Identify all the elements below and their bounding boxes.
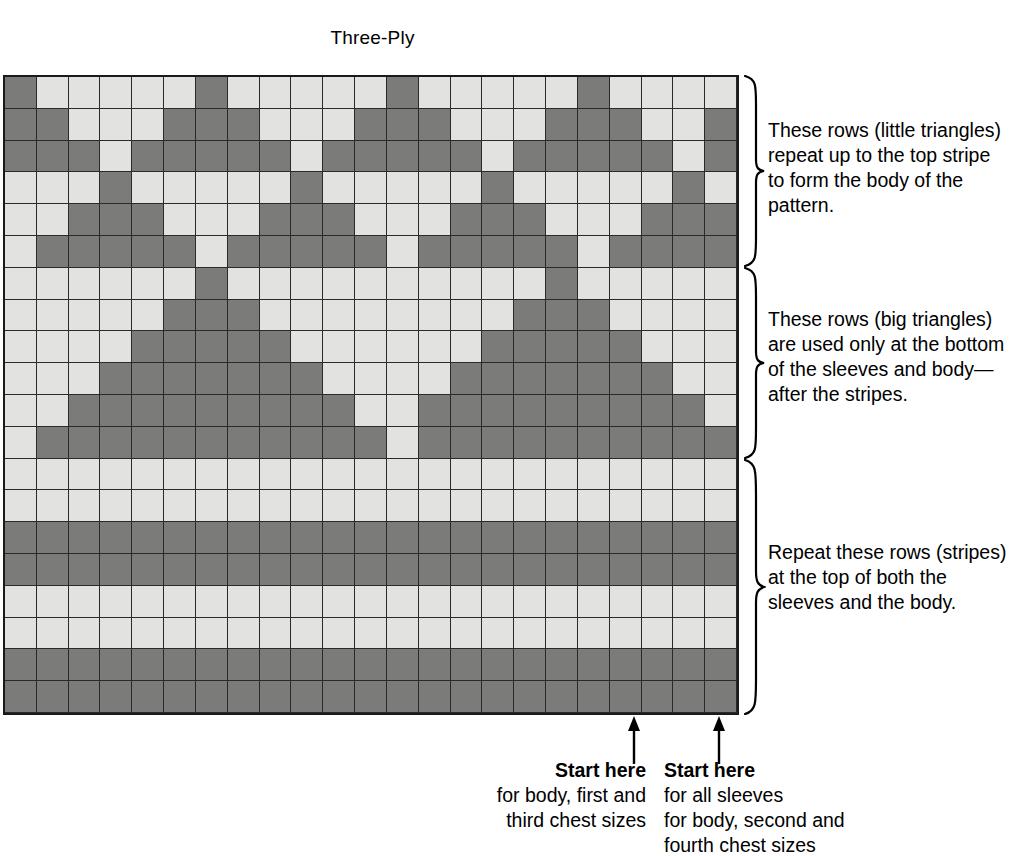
chart-cell[interactable] bbox=[291, 141, 323, 173]
chart-cell[interactable] bbox=[100, 300, 132, 332]
chart-cell[interactable] bbox=[164, 268, 196, 300]
chart-cell[interactable] bbox=[5, 586, 37, 618]
chart-cell[interactable] bbox=[37, 172, 69, 204]
chart-cell[interactable] bbox=[355, 427, 387, 459]
chart-cell[interactable] bbox=[37, 77, 69, 109]
chart-cell[interactable] bbox=[578, 427, 610, 459]
chart-cell[interactable] bbox=[673, 586, 705, 618]
chart-cell[interactable] bbox=[196, 109, 228, 141]
chart-cell[interactable] bbox=[69, 554, 101, 586]
chart-cell[interactable] bbox=[260, 554, 292, 586]
chart-cell[interactable] bbox=[5, 490, 37, 522]
chart-cell[interactable] bbox=[578, 363, 610, 395]
chart-cell[interactable] bbox=[69, 236, 101, 268]
chart-cell[interactable] bbox=[705, 268, 737, 300]
chart-cell[interactable] bbox=[482, 236, 514, 268]
chart-cell[interactable] bbox=[323, 427, 355, 459]
chart-cell[interactable] bbox=[291, 681, 323, 713]
chart-cell[interactable] bbox=[5, 236, 37, 268]
chart-cell[interactable] bbox=[132, 236, 164, 268]
chart-cell[interactable] bbox=[419, 554, 451, 586]
chart-cell[interactable] bbox=[5, 681, 37, 713]
chart-cell[interactable] bbox=[323, 77, 355, 109]
chart-cell[interactable] bbox=[37, 109, 69, 141]
chart-cell[interactable] bbox=[705, 236, 737, 268]
chart-cell[interactable] bbox=[260, 395, 292, 427]
chart-cell[interactable] bbox=[196, 459, 228, 491]
chart-cell[interactable] bbox=[260, 649, 292, 681]
chart-cell[interactable] bbox=[578, 395, 610, 427]
chart-cell[interactable] bbox=[673, 681, 705, 713]
chart-cell[interactable] bbox=[419, 331, 451, 363]
chart-cell[interactable] bbox=[482, 172, 514, 204]
chart-cell[interactable] bbox=[451, 300, 483, 332]
chart-cell[interactable] bbox=[291, 490, 323, 522]
chart-cell[interactable] bbox=[705, 427, 737, 459]
chart-cell[interactable] bbox=[419, 618, 451, 650]
chart-cell[interactable] bbox=[196, 618, 228, 650]
chart-cell[interactable] bbox=[323, 618, 355, 650]
chart-cell[interactable] bbox=[705, 586, 737, 618]
chart-cell[interactable] bbox=[37, 618, 69, 650]
chart-cell[interactable] bbox=[546, 681, 578, 713]
chart-cell[interactable] bbox=[228, 268, 260, 300]
chart-cell[interactable] bbox=[100, 204, 132, 236]
chart-cell[interactable] bbox=[37, 459, 69, 491]
chart-cell[interactable] bbox=[69, 109, 101, 141]
chart-cell[interactable] bbox=[132, 490, 164, 522]
chart-cell[interactable] bbox=[546, 141, 578, 173]
chart-cell[interactable] bbox=[164, 554, 196, 586]
chart-cell[interactable] bbox=[291, 618, 323, 650]
chart-cell[interactable] bbox=[642, 331, 674, 363]
chart-cell[interactable] bbox=[451, 141, 483, 173]
chart-cell[interactable] bbox=[578, 649, 610, 681]
chart-cell[interactable] bbox=[546, 300, 578, 332]
chart-cell[interactable] bbox=[132, 109, 164, 141]
chart-cell[interactable] bbox=[546, 331, 578, 363]
chart-cell[interactable] bbox=[196, 236, 228, 268]
chart-cell[interactable] bbox=[37, 649, 69, 681]
chart-cell[interactable] bbox=[610, 77, 642, 109]
chart-cell[interactable] bbox=[260, 77, 292, 109]
chart-cell[interactable] bbox=[673, 236, 705, 268]
chart-cell[interactable] bbox=[546, 268, 578, 300]
chart-cell[interactable] bbox=[578, 586, 610, 618]
chart-cell[interactable] bbox=[164, 300, 196, 332]
chart-cell[interactable] bbox=[419, 77, 451, 109]
chart-cell[interactable] bbox=[355, 204, 387, 236]
chart-cell[interactable] bbox=[228, 109, 260, 141]
chart-cell[interactable] bbox=[228, 681, 260, 713]
chart-cell[interactable] bbox=[673, 618, 705, 650]
chart-cell[interactable] bbox=[482, 331, 514, 363]
chart-cell[interactable] bbox=[260, 427, 292, 459]
chart-cell[interactable] bbox=[419, 586, 451, 618]
chart-cell[interactable] bbox=[451, 77, 483, 109]
chart-cell[interactable] bbox=[387, 204, 419, 236]
chart-cell[interactable] bbox=[228, 331, 260, 363]
chart-cell[interactable] bbox=[387, 649, 419, 681]
chart-cell[interactable] bbox=[387, 109, 419, 141]
chart-cell[interactable] bbox=[228, 459, 260, 491]
chart-cell[interactable] bbox=[610, 268, 642, 300]
chart-cell[interactable] bbox=[5, 141, 37, 173]
chart-cell[interactable] bbox=[673, 522, 705, 554]
chart-cell[interactable] bbox=[451, 204, 483, 236]
chart-cell[interactable] bbox=[69, 649, 101, 681]
chart-cell[interactable] bbox=[164, 141, 196, 173]
chart-cell[interactable] bbox=[642, 649, 674, 681]
chart-cell[interactable] bbox=[451, 459, 483, 491]
chart-cell[interactable] bbox=[260, 618, 292, 650]
chart-cell[interactable] bbox=[705, 300, 737, 332]
chart-cell[interactable] bbox=[291, 204, 323, 236]
chart-cell[interactable] bbox=[514, 141, 546, 173]
chart-cell[interactable] bbox=[419, 459, 451, 491]
chart-cell[interactable] bbox=[578, 172, 610, 204]
chart-cell[interactable] bbox=[323, 459, 355, 491]
knitting-chart-grid[interactable] bbox=[3, 75, 739, 715]
chart-cell[interactable] bbox=[291, 649, 323, 681]
chart-cell[interactable] bbox=[387, 681, 419, 713]
chart-cell[interactable] bbox=[705, 141, 737, 173]
chart-cell[interactable] bbox=[705, 618, 737, 650]
chart-cell[interactable] bbox=[546, 554, 578, 586]
chart-cell[interactable] bbox=[164, 681, 196, 713]
